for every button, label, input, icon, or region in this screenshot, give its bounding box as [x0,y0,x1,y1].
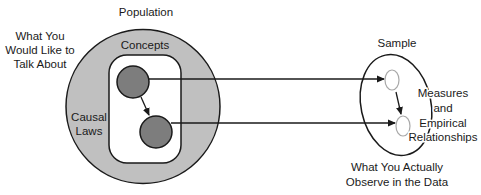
concept-node-1 [117,66,149,98]
outer-label-line-1: What You [15,30,64,42]
population-title: Population [119,6,173,18]
sample-title: Sample [378,37,417,49]
observe-line-1: What You Actually [351,161,443,173]
measures-line-2: and [433,102,452,114]
causal-laws-line-2: Laws [76,125,103,137]
outer-label-line-3: Talk About [13,58,67,70]
measures-line-3: Empirical [419,117,466,129]
observe-line-2: Observe in the Data [346,176,449,188]
empirical-arrow [396,92,401,114]
causal-laws-line-1: Causal [71,111,107,123]
concept-node-2 [140,116,172,148]
measure-node-1 [385,70,399,90]
diagram-canvas: Population What You Would Like to Talk A… [0,0,481,195]
measures-line-1: Measures [418,87,469,99]
concepts-label: Concepts [121,39,170,51]
population-sample-diagram: Population What You Would Like to Talk A… [0,0,481,195]
sample-ellipse [351,48,441,162]
outer-label-line-2: Would Like to [5,44,74,56]
measures-line-4: Relationships [408,131,477,143]
